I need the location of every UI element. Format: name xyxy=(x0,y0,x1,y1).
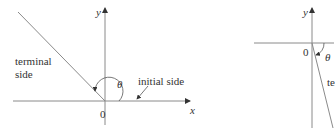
theta-label-right: θ xyxy=(325,51,330,63)
theta-label: θ xyxy=(117,78,122,90)
x-axis-label: x xyxy=(190,104,195,116)
terminal-side-label-1: terminal xyxy=(15,55,52,67)
initial-side-pointer xyxy=(137,86,148,99)
y-axis-label: y xyxy=(96,6,101,18)
terminal-label-right: te xyxy=(327,76,335,88)
angle-arc-right xyxy=(316,43,324,55)
origin-label-right: 0 xyxy=(303,46,309,58)
origin-label: 0 xyxy=(100,108,106,120)
y-axis-label-right: y xyxy=(303,6,308,18)
right-figure xyxy=(254,8,334,128)
terminal-side-label-2: side xyxy=(15,68,33,80)
initial-side-label: initial side xyxy=(138,75,184,87)
